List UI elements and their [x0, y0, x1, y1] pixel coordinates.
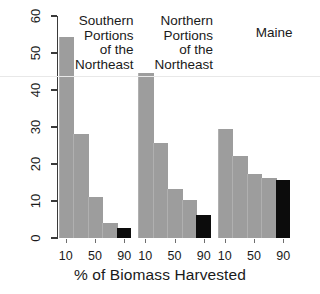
x-tick-label-2-10: 10 — [213, 249, 237, 263]
x-axis-label: % of Biomass Harvested — [0, 266, 320, 284]
x-tick-1-50 — [175, 239, 176, 243]
x-tick-label-2-90: 90 — [271, 249, 295, 263]
bar-1-10 — [138, 73, 154, 238]
y-tick-label-20: 20 — [29, 151, 43, 177]
x-tick-2-10 — [225, 239, 226, 243]
group-label-line: Northeast — [75, 58, 134, 73]
x-tick-label-0-10: 10 — [54, 249, 78, 263]
group-label-line: Portions — [154, 29, 213, 44]
group-label-1: NorthernPortionsof theNortheast — [154, 14, 213, 72]
bar-2-70 — [261, 178, 277, 238]
y-tick-label-60: 60 — [29, 3, 43, 29]
x-tick-label-2-50: 50 — [242, 249, 266, 263]
bar-0-10 — [59, 37, 75, 238]
group-label-line: of the — [75, 43, 134, 58]
x-tick-2-50 — [254, 239, 255, 243]
bar-1-70 — [182, 200, 198, 238]
y-tick-label-40: 40 — [29, 77, 43, 103]
bar-1-50 — [167, 189, 183, 238]
bar-group-2 — [218, 16, 291, 238]
bar-0-50 — [88, 197, 104, 238]
x-tick-label-0-50: 50 — [83, 249, 107, 263]
bar-2-10 — [218, 129, 234, 238]
bar-2-50 — [247, 174, 263, 238]
y-tick-label-0: 0 — [29, 225, 43, 251]
x-tick-label-1-50: 50 — [163, 249, 187, 263]
x-tick-2-90 — [283, 239, 284, 243]
bar-chart-figure: % of Plots 0102030405060 SouthernPortion… — [0, 0, 320, 294]
group-label-line: of the — [154, 43, 213, 58]
group-label-0: SouthernPortionsof theNortheast — [75, 14, 134, 72]
x-tick-0-10 — [66, 239, 67, 243]
x-tick-0-50 — [95, 239, 96, 243]
y-tick-label-10: 10 — [29, 188, 43, 214]
group-label-line: Northern — [154, 14, 213, 29]
x-tick-label-1-10: 10 — [133, 249, 157, 263]
group-label-2: Maine — [256, 26, 293, 41]
group-label-line: Northeast — [154, 58, 213, 73]
bar-0-70 — [102, 223, 118, 238]
bar-0-90 — [117, 228, 132, 238]
group-label-line: Maine — [256, 26, 293, 41]
bar-1-90 — [196, 215, 211, 238]
group-label-line: Portions — [75, 29, 134, 44]
x-tick-1-90 — [204, 239, 205, 243]
x-tick-0-90 — [124, 239, 125, 243]
bar-1-30 — [153, 143, 169, 238]
bar-0-30 — [73, 134, 89, 238]
x-tick-1-10 — [145, 239, 146, 243]
y-tick-label-50: 50 — [29, 40, 43, 66]
group-label-line: Southern — [75, 14, 134, 29]
bar-2-90 — [276, 180, 291, 238]
y-tick-label-30: 30 — [29, 114, 43, 140]
x-axis-line — [57, 238, 58, 239]
bar-2-30 — [232, 156, 248, 238]
